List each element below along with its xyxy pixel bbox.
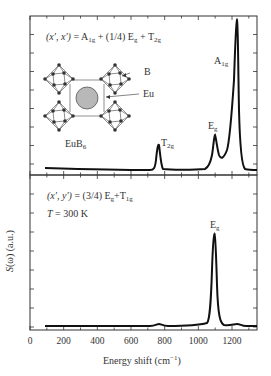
- eu-atom: [76, 87, 98, 109]
- top-formula: (x′, x′)(x′, x′) = A = A1g + (1/4) Eg + …: [46, 32, 161, 44]
- peak-label-t2g: T2g: [161, 138, 174, 150]
- y-axis-label: S(ω) (a.u.): [4, 230, 15, 272]
- bottom-formula: (x′, y′) = (3/4) Eg+T1g: [47, 191, 133, 203]
- inset-label-b: B: [144, 67, 151, 77]
- bottom-spectrum-line: [45, 234, 257, 326]
- sub: g: [216, 224, 220, 232]
- xlabel-text: Energy shift (cm: [103, 355, 170, 366]
- peak-label-eg-top: Eg: [208, 121, 218, 133]
- temperature-label: T = 300 K: [47, 209, 88, 219]
- sub: 1g: [126, 195, 133, 203]
- raman-figure: [0, 0, 271, 376]
- sub: 6: [83, 143, 87, 151]
- peak-label-a1g: A1g: [214, 56, 228, 68]
- inset-label-eu: Eu: [143, 89, 154, 99]
- x-tick-label: 1200: [223, 336, 242, 346]
- x-tick-label: 200: [57, 336, 71, 346]
- sub: 1g: [221, 60, 228, 68]
- inset-label-eub6: EuB6: [65, 139, 86, 151]
- x-tick-label: 400: [90, 336, 104, 346]
- sub: 2g: [167, 142, 174, 150]
- formula-mid2: + T: [137, 31, 154, 42]
- x-tick-label: 0: [28, 336, 33, 346]
- x-axis-label: Energy shift (cm−1): [103, 355, 181, 366]
- eub6-crystal-inset: [43, 63, 139, 132]
- sub: 2g: [154, 36, 161, 44]
- x-tick-label: 800: [158, 336, 172, 346]
- sub: g: [214, 125, 218, 133]
- x-tick-label: 1000: [189, 336, 208, 346]
- formula-mid: + (1/4) E: [95, 31, 134, 42]
- arrow-eu: [106, 94, 139, 97]
- inset-name: EuB: [65, 138, 83, 149]
- formula-b: +T: [114, 190, 126, 201]
- x-tick-label: 600: [124, 336, 138, 346]
- temp-value: = 300 K: [53, 208, 88, 219]
- peak-label-eg-bottom: Eg: [210, 220, 220, 232]
- xlabel-end: ): [177, 355, 180, 366]
